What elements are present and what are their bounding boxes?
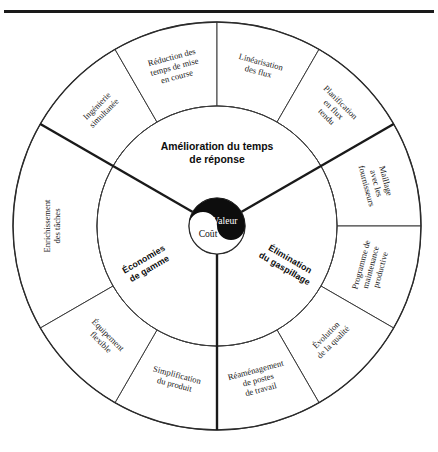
wheel-svg: ValeurCoût Enrichissementdes tâchesIngén… — [0, 0, 438, 452]
hub-value-label: Valeur — [212, 215, 238, 226]
hub-cost-label: Coût — [199, 228, 218, 239]
hub-yin-yang: ValeurCoût — [189, 198, 245, 254]
lean-wheel-diagram: ValeurCoût Enrichissementdes tâchesIngén… — [0, 0, 438, 452]
